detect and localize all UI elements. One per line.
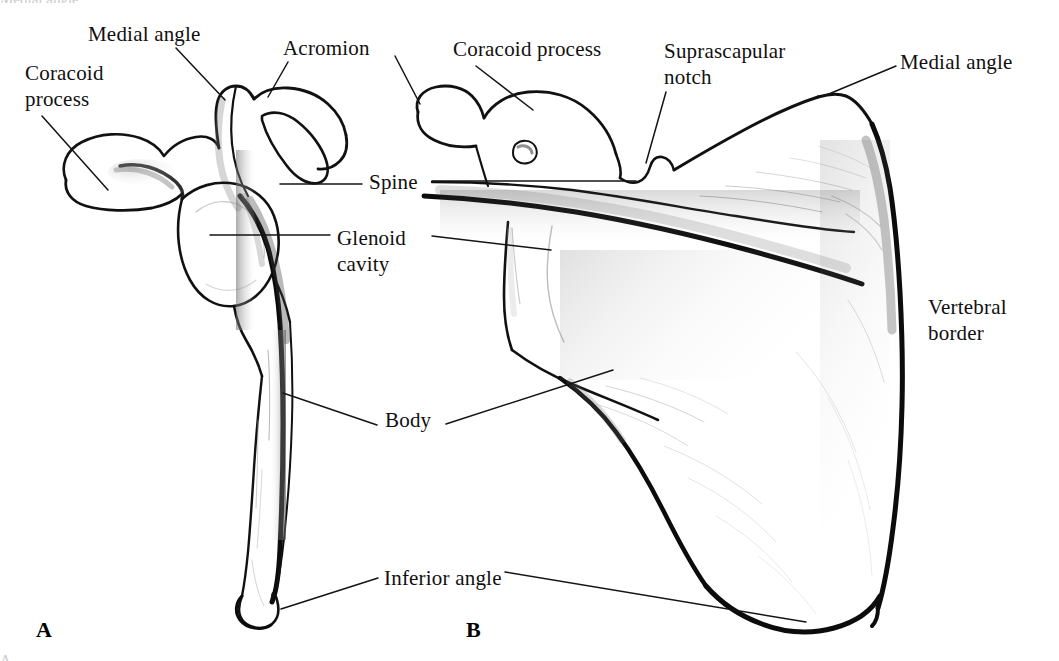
label-medial-angle-a: Medial angle [88, 22, 201, 47]
scapula-artwork [0, 0, 1059, 661]
panel-letter-b: B [466, 617, 481, 643]
leader-coracoid-process-b [476, 66, 533, 110]
leader-acromion-a-2 [395, 56, 420, 104]
label-glenoid-cavity: Glenoid cavity [337, 225, 406, 277]
label-inferior-angle: Inferior angle [384, 566, 502, 591]
label-spine: Spine [369, 170, 418, 195]
label-suprascapular-notch-b: Suprascapular notch [664, 38, 786, 90]
panel-letter-a: A [36, 617, 52, 643]
label-acromion-a: Acromion [283, 36, 370, 61]
bottom-cut-off-text: A [0, 652, 1059, 661]
leader-suprascapular-notch-b [646, 92, 666, 163]
label-coracoid-process-a: Coracoid process [25, 60, 104, 112]
label-body: Body [385, 408, 431, 433]
leader-inferior-angle-left [281, 578, 378, 609]
leader-inferior-angle-right [505, 572, 806, 622]
leader-acromion-a [268, 62, 288, 97]
anatomy-figure: Medial angle [0, 0, 1059, 661]
label-medial-angle-b: Medial angle [900, 50, 1013, 75]
leader-medial-angle-a [176, 48, 225, 100]
leader-coracoid-process-a [42, 116, 108, 190]
leader-medial-angle-b [824, 66, 896, 96]
label-coracoid-process-b: Coracoid process [453, 37, 601, 62]
leader-body-left [283, 393, 377, 425]
label-vertebral-border-b: Vertebral border [928, 294, 1007, 346]
